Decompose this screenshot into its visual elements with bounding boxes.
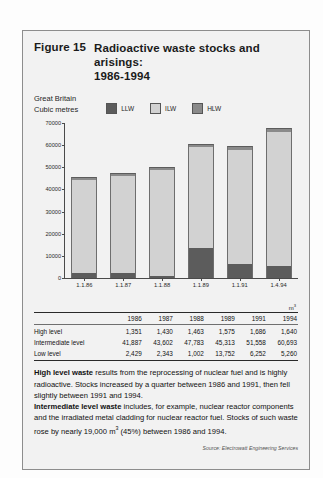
y-tick-40000: 40000	[45, 186, 65, 192]
figure-title: Radioactive waste stocks and arisings: 1…	[94, 41, 298, 83]
data-table: 198619871988198919911994 High level1,351…	[34, 312, 298, 361]
y-tick-70000: 70000	[45, 120, 65, 126]
bar-group-1.1.87[interactable]: 1.1.87	[110, 123, 136, 278]
legend-label-llw: LLW	[121, 105, 134, 112]
x-tick-mark-1.1.88	[162, 278, 163, 281]
legend-item-ilw: ILW	[150, 103, 176, 114]
bar-group-1.1.86[interactable]: 1.1.86	[71, 123, 97, 278]
y-tick-10000: 10000	[45, 253, 65, 259]
table-cell: 51,558	[236, 337, 267, 348]
bar-segment-llw-1.1.91[interactable]	[227, 264, 253, 278]
table-cell: 45,313	[205, 337, 236, 348]
note-p2-body-b: (45%) between 1986 and 1994.	[118, 427, 226, 436]
chart-bars: 1.1.861.1.871.1.881.1.891.1.911.4.94	[65, 123, 298, 278]
table-col-header-1994: 1994	[267, 313, 298, 325]
table-cell: 1,463	[174, 325, 205, 337]
legend-item-llw: LLW	[106, 103, 134, 114]
y-tick-60000: 60000	[45, 142, 65, 148]
table-cell: 2,429	[112, 348, 143, 361]
figure-header: Figure 15 Radioactive waste stocks and a…	[34, 41, 298, 83]
table-cell: 5,260	[267, 348, 298, 361]
chart-plot-area: 010000200003000040000500006000070000 1.1…	[64, 123, 298, 279]
legend-label-hlw: HLW	[207, 105, 221, 112]
chart-legend: LLW ILW HLW	[106, 103, 221, 114]
legend-swatch-llw	[106, 103, 117, 114]
bar-segment-llw-1.4.94[interactable]	[266, 266, 292, 278]
table-cell: 2,343	[143, 348, 174, 361]
note-p2-lead: Intermediate level waste	[34, 402, 121, 411]
x-tick-label-1.1.87: 1.1.87	[115, 282, 131, 288]
table-cell: 43,602	[143, 337, 174, 348]
table-row-label: Low level	[34, 348, 112, 361]
bar-segment-ilw-1.4.94[interactable]	[266, 132, 292, 266]
note-paragraph-high-level: High level waste results from the reproc…	[34, 367, 298, 401]
legend-item-hlw: HLW	[192, 103, 221, 114]
x-tick-mark-1.1.89	[201, 278, 202, 281]
x-tick-mark-1.1.87	[123, 278, 124, 281]
x-tick-label-1.1.86: 1.1.86	[76, 282, 92, 288]
table-row-label: Intermediate level	[34, 337, 112, 348]
bar-segment-ilw-1.1.87[interactable]	[110, 176, 136, 273]
table-cell: 13,752	[205, 348, 236, 361]
x-tick-mark-1.1.91	[240, 278, 241, 281]
source-line: Source: Electrowatt Engineering Services	[34, 445, 298, 451]
table-col-header-1988: 1988	[174, 313, 205, 325]
data-table-wrap: m3 198619871988198919911994 High level1,…	[34, 303, 298, 361]
bar-segment-llw-1.1.89[interactable]	[188, 248, 214, 278]
x-tick-label-1.1.88: 1.1.88	[154, 282, 170, 288]
x-tick-label-1.1.91: 1.1.91	[232, 282, 248, 288]
subcaption-block: Great Britain Cubic metres	[34, 93, 78, 115]
y-tick-30000: 30000	[45, 209, 65, 215]
bar-group-1.4.94[interactable]: 1.4.94	[266, 123, 292, 278]
table-cell: 6,252	[236, 348, 267, 361]
table-unit-header: m3	[34, 303, 298, 312]
table-col-header-1991: 1991	[236, 313, 267, 325]
table-head: 198619871988198919911994	[34, 313, 298, 325]
table-cell: 1,351	[112, 325, 143, 337]
table-col-header-1986: 1986	[112, 313, 143, 325]
table-header-row: 198619871988198919911994	[34, 313, 298, 325]
table-cell: 60,693	[267, 337, 298, 348]
legend-swatch-ilw	[150, 103, 161, 114]
table-row: Low level2,4292,3431,00213,7526,2525,260	[34, 348, 298, 361]
x-tick-label-1.1.89: 1.1.89	[193, 282, 209, 288]
table-cell: 1,575	[205, 325, 236, 337]
note-paragraph-intermediate-level: Intermediate level waste includes, for e…	[34, 401, 298, 437]
table-cell: 1,002	[174, 348, 205, 361]
table-cell: 47,783	[174, 337, 205, 348]
bar-group-1.1.89[interactable]: 1.1.89	[188, 123, 214, 278]
figure-number: Figure 15	[34, 41, 86, 53]
legend-swatch-hlw	[192, 103, 203, 114]
y-tick-20000: 20000	[45, 231, 65, 237]
unit-label: Cubic metres	[34, 104, 78, 115]
table-body: High level1,3511,4301,4631,5751,6861,640…	[34, 325, 298, 361]
x-tick-label-1.4.94: 1.4.94	[270, 282, 286, 288]
table-cell: 1,686	[236, 325, 267, 337]
table-row: Intermediate level41,88743,60247,78345,3…	[34, 337, 298, 348]
bar-segment-ilw-1.1.89[interactable]	[188, 147, 214, 247]
table-col-header-1987: 1987	[143, 313, 174, 325]
figure-card: Figure 15 Radioactive waste stocks and a…	[22, 30, 310, 470]
bar-group-1.1.91[interactable]: 1.1.91	[227, 123, 253, 278]
table-row: High level1,3511,4301,4631,5751,6861,640	[34, 325, 298, 337]
table-col-header-label	[34, 313, 112, 325]
bar-segment-ilw-1.1.88[interactable]	[149, 170, 175, 276]
notes-block: High level waste results from the reproc…	[34, 367, 298, 437]
bar-segment-ilw-1.1.86[interactable]	[71, 180, 97, 273]
figure-page: Figure 15 Radioactive waste stocks and a…	[0, 0, 323, 478]
y-tick-0: 0	[58, 275, 65, 281]
table-cell: 41,887	[112, 337, 143, 348]
table-cell: 1,640	[267, 325, 298, 337]
bar-segment-ilw-1.1.91[interactable]	[227, 150, 253, 264]
table-row-label: High level	[34, 325, 112, 337]
y-tick-50000: 50000	[45, 164, 65, 170]
table-cell: 1,430	[143, 325, 174, 337]
legend-label-ilw: ILW	[165, 105, 176, 112]
bar-group-1.1.88[interactable]: 1.1.88	[149, 123, 175, 278]
region-label: Great Britain	[34, 93, 78, 104]
subcaption-legend-row: Great Britain Cubic metres LLW ILW HLW	[34, 93, 298, 115]
x-tick-mark-1.4.94	[279, 278, 280, 281]
stacked-bar-chart: 010000200003000040000500006000070000 1.1…	[34, 119, 300, 299]
x-tick-mark-1.1.86	[84, 278, 85, 281]
note-p1-lead: High level waste	[34, 368, 93, 377]
